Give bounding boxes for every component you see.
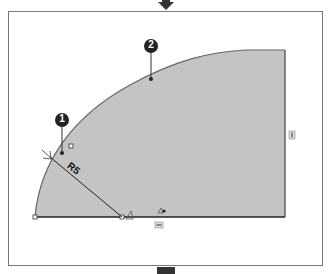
callout-2-label: 2 <box>147 39 155 50</box>
bottom-arrow-icon <box>157 267 175 274</box>
vertical-relation-icon[interactable] <box>289 131 295 139</box>
callout-1-anchor <box>60 151 64 155</box>
callout-2-anchor <box>149 77 153 81</box>
top-arrow-icon <box>158 0 174 10</box>
callout-1-label: 1 <box>58 113 66 124</box>
sketch-canvas: 1 2 R5 <box>0 0 332 274</box>
endpoint-left[interactable] <box>33 215 37 219</box>
endpoint-arc[interactable] <box>69 144 73 148</box>
horizontal-relation-icon[interactable] <box>155 222 163 228</box>
